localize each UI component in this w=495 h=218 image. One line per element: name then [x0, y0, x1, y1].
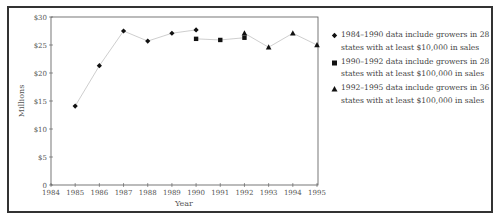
x-tick-label: 1994	[284, 189, 302, 197]
legend-text-line2: states with at least $100,000 in sales	[341, 68, 491, 81]
x-tick-label: 1991	[211, 189, 229, 197]
y-tick-label: $20	[34, 70, 47, 78]
y-tick-label: $5	[38, 154, 47, 162]
legend-text-line2: states with at least $100,000 in sales	[341, 95, 491, 108]
legend-item-square: 1990–1992 data include growers in 28 sta…	[331, 56, 491, 81]
square-data-point	[218, 38, 222, 42]
legend-text-line1: 1990–1992 data include growers in 28	[341, 56, 491, 69]
x-tick-label: 1984	[42, 189, 60, 197]
y-tick-label: $25	[34, 42, 47, 50]
y-axis-label: Millions	[17, 85, 26, 118]
axes: 0$5$10$15$20$25$301984198519861987198819…	[34, 14, 326, 198]
x-tick-label: 1990	[187, 189, 205, 197]
x-tick-label: 1986	[90, 189, 108, 197]
triangle-data-point	[266, 44, 272, 49]
diamond-data-point	[97, 63, 102, 68]
triangle-data-point	[290, 30, 296, 35]
x-tick-label: 1995	[308, 189, 326, 197]
legend-item-diamond: 1984–1990 data include growers in 28 sta…	[331, 29, 491, 54]
x-tick-label: 1987	[115, 189, 133, 197]
diamond-data-point	[193, 27, 198, 32]
legend-text-line1: 1984–1990 data include growers in 28	[341, 29, 491, 42]
legend-text-line1: 1992–1995 data include growers in 36	[341, 82, 491, 95]
square-data-point	[242, 36, 246, 40]
diamond-data-point	[145, 38, 150, 43]
x-axis-label: Year	[174, 199, 193, 208]
legend-text-line2: states with at least $10,000 in sales	[341, 42, 491, 55]
square-data-point	[194, 37, 198, 41]
triangle-data-point	[242, 30, 248, 35]
legend: 1984–1990 data include growers in 28 sta…	[331, 29, 491, 109]
y-tick-label: $30	[34, 14, 47, 22]
y-tick-label: $15	[34, 98, 47, 106]
x-tick-label: 1988	[139, 189, 157, 197]
diamond-data-point	[121, 28, 126, 33]
series-lines	[75, 30, 317, 106]
x-tick-label: 1985	[66, 189, 84, 197]
diamond-data-point	[73, 103, 78, 108]
legend-item-triangle: 1992–1995 data include growers in 36 sta…	[331, 82, 491, 107]
x-tick-label: 1993	[260, 189, 278, 197]
square-marker-icon	[331, 59, 338, 66]
diamond-marker-icon	[331, 32, 338, 39]
y-tick-label: $10	[34, 126, 47, 134]
x-tick-label: 1992	[236, 189, 254, 197]
diamond-data-point	[169, 31, 174, 36]
x-tick-label: 1989	[163, 189, 181, 197]
triangle-data-point	[314, 42, 320, 47]
triangle-marker-icon	[331, 85, 338, 92]
